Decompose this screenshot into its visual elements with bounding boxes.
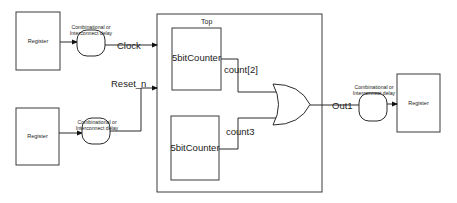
counter-label: 5bitCounter xyxy=(170,142,219,153)
register-output-dest: Register xyxy=(397,74,440,132)
register-label: Register xyxy=(27,133,48,139)
delay-label-line2: Interconnect delay xyxy=(353,90,396,96)
delay-label-line2: Interconnect delay xyxy=(70,30,113,36)
counter-1: 5bitCounter xyxy=(172,28,221,90)
register-reset-source: Register xyxy=(16,108,59,165)
timing-diagram: Top Register Register Register Combinati… xyxy=(0,0,457,203)
signal-out-label: Out1 xyxy=(332,100,353,111)
signal-reset-label: Reset_n xyxy=(111,78,146,89)
signal-count2-label: count[2] xyxy=(224,64,258,75)
delay-out: Combinational or Interconnect delay xyxy=(353,84,396,121)
counter-2: 5bitCounter xyxy=(170,116,219,180)
register-clock-source: Register xyxy=(16,12,60,70)
signal-clock-label: Clock xyxy=(117,40,141,51)
register-label: Register xyxy=(408,100,429,106)
delay-clock: Combinational or Interconnect delay xyxy=(70,24,113,56)
top-module-label: Top xyxy=(201,18,212,26)
signal-count3-label: count3 xyxy=(226,126,255,137)
counter-label: 5bitCounter xyxy=(172,52,221,63)
delay-label-line2: Interconnect delay xyxy=(76,125,119,131)
register-label: Register xyxy=(28,38,49,44)
